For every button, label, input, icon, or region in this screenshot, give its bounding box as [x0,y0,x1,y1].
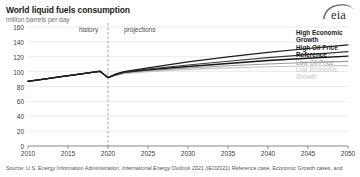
y-tick-0: 0 [0,143,24,150]
x-tick-marks [28,146,348,149]
x-tick-2045: 2045 [294,150,322,158]
y-tick-20: 20 [0,128,24,135]
legend: High Economic Growth High Oil Price Refe… [296,29,360,81]
projections-label: projections [124,26,155,33]
y-tick-160: 160 [0,24,24,31]
x-tick-2030: 2030 [174,150,202,158]
legend-label-line1: High Oil Price [296,44,338,51]
x-tick-2020: 2020 [94,150,122,158]
eia-logo: eia [320,1,356,23]
legend-label-line1: Reference [296,51,327,58]
source-prefix: Source: U.S. Energy Information Administ… [6,165,122,171]
legend-label-line2: Growth [296,73,317,80]
y-tick-40: 40 [0,113,24,120]
legend-label-line2: Growth [296,36,318,43]
legend-item-high-economic-growth: High Economic [296,29,360,36]
legend-item-high-oil-price: High Oil Price [296,44,360,51]
x-tick-2035: 2035 [214,150,242,158]
history-label: history [79,26,98,33]
chart-page: World liquid fuels consumption million b… [0,0,360,177]
y-tick-60: 60 [0,98,24,105]
x-tick-2040: 2040 [254,150,282,158]
x-tick-2050: 2050 [334,150,360,158]
legend-label-line1: Low Oil Price [296,59,334,66]
source-note: Source: U.S. Energy Information Administ… [6,165,358,172]
y-tick-140: 140 [0,39,24,46]
y-tick-80: 80 [0,84,24,91]
x-tick-2025: 2025 [134,150,162,158]
x-tick-2015: 2015 [54,150,82,158]
legend-item-reference: Reference [296,51,360,58]
page-title: World liquid fuels consumption [6,5,130,15]
legend-item-low-oil-price: Low Oil Price [296,59,360,66]
source-suffix: (IEO2021) Reference case, Economic Growt… [204,165,343,171]
y-tick-120: 120 [0,54,24,61]
chart-subtitle: million barrels per day [6,16,70,23]
x-tick-2010: 2010 [14,150,42,158]
legend-item-low-economic-growth: Low Economic [296,66,360,73]
legend-label-line1: High Economic [296,29,343,36]
legend-item-low-economic-growth-line2: Growth [296,73,360,80]
legend-label-line1: Low Economic [296,66,338,73]
svg-text:eia: eia [331,8,346,22]
y-tick-100: 100 [0,69,24,76]
source-publication: International Energy Outlook 2021 [122,165,204,171]
legend-item-high-economic-growth-line2: Growth [296,36,360,43]
